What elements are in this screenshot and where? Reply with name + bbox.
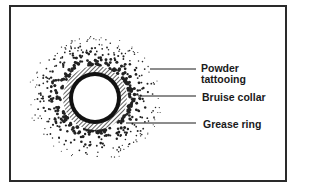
label-grease-ring: Grease ring xyxy=(203,119,261,129)
leader-lines xyxy=(126,69,196,123)
label-bruise-collar: Bruise collar xyxy=(202,92,266,102)
bullet-hole xyxy=(73,76,117,120)
label-powder-tattooing: Powder tattooing xyxy=(201,63,246,84)
label-powder-line-2: tattooing xyxy=(201,74,246,84)
label-powder-line-1: Powder xyxy=(201,63,246,73)
